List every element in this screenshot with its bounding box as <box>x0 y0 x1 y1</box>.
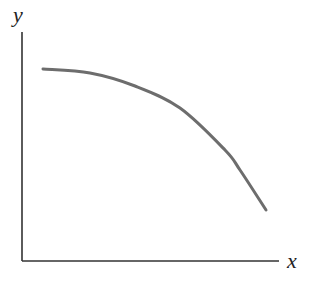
data-curve <box>43 69 266 210</box>
y-axis-label: y <box>11 2 23 27</box>
x-axis-label: x <box>286 248 297 273</box>
chart: y x <box>0 0 309 291</box>
